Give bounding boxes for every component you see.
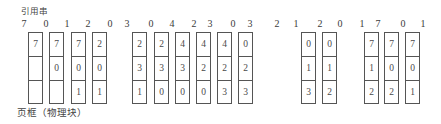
reference-item: 1 (417, 18, 429, 29)
frame-cell: 1 (93, 80, 106, 103)
frame-cell: 1 (406, 80, 419, 103)
frame-cell: 2 (218, 56, 231, 79)
frame-column: 0 2 3 (238, 32, 253, 104)
frame-cell: 0 (72, 56, 85, 79)
frame-column: 7 0 (49, 32, 64, 104)
frame-column: 0 1 3 (301, 32, 316, 104)
frame-cell: 7 (365, 33, 378, 56)
frame-column: 2 0 1 (92, 32, 107, 104)
frame-column: 4 3 0 (175, 32, 190, 104)
frame-cell: 1 (365, 56, 378, 79)
frame-column: 7 1 2 (364, 32, 379, 104)
frame-cell: 2 (385, 80, 398, 103)
reference-item: 3 (121, 18, 133, 29)
frame-cell: 3 (176, 56, 189, 79)
frame-cell: 2 (93, 33, 106, 56)
frame-cell: 7 (50, 33, 63, 56)
frame-cell: 1 (323, 56, 336, 79)
frame-column: 2 3 1 (132, 32, 147, 104)
frame-cell (50, 80, 63, 103)
frame-cell: 2 (155, 33, 168, 56)
frame-cell: 0 (197, 80, 210, 103)
frame-cell: 1 (302, 56, 315, 79)
frame-cell: 2 (197, 56, 210, 79)
frame-column: 2 3 0 (154, 32, 169, 104)
reference-item: 0 (227, 18, 239, 29)
frame-cell: 0 (155, 80, 168, 103)
frame-column: 7 (28, 32, 43, 104)
frame-cell: 2 (323, 80, 336, 103)
page-frame-label: 页框（物理块） (17, 107, 87, 119)
frame-cell: 4 (218, 33, 231, 56)
frame-cell: 2 (133, 33, 146, 56)
frame-column: 7 0 1 (71, 32, 86, 104)
reference-item: 4 (166, 18, 178, 29)
frame-cell: 1 (133, 80, 146, 103)
reference-item: 0 (104, 18, 116, 29)
frame-cell (29, 80, 42, 103)
frame-column: 0 1 2 (322, 32, 337, 104)
frame-cell: 7 (72, 33, 85, 56)
frame-cell: 7 (385, 33, 398, 56)
frame-column: 4 2 3 (217, 32, 232, 104)
frame-cell: 0 (93, 56, 106, 79)
reference-item: 0 (334, 18, 346, 29)
reference-item: 2 (314, 18, 326, 29)
frame-cell: 0 (50, 56, 63, 79)
frame-column: 4 2 0 (196, 32, 211, 104)
frame-cell: 3 (302, 80, 315, 103)
frame-cell: 0 (406, 56, 419, 79)
frame-cell: 0 (385, 56, 398, 79)
frame-cell: 4 (176, 33, 189, 56)
frame-cell: 2 (239, 56, 252, 79)
frame-column: 7 0 1 (405, 32, 420, 104)
frame-cell: 3 (239, 80, 252, 103)
reference-string-title: 引用串 (21, 6, 48, 17)
frame-column: 7 0 2 (384, 32, 399, 104)
frame-cell: 0 (302, 33, 315, 56)
frame-cell: 4 (197, 33, 210, 56)
reference-item: 3 (244, 18, 256, 29)
frame-cell: 3 (218, 80, 231, 103)
reference-item: 3 (204, 18, 216, 29)
reference-item: 1 (356, 18, 368, 29)
reference-item: 0 (40, 18, 52, 29)
reference-item: 1 (290, 18, 302, 29)
frame-cell: 0 (239, 33, 252, 56)
frame-cell: 7 (406, 33, 419, 56)
frame-cell: 1 (72, 80, 85, 103)
frame-cell: 3 (133, 56, 146, 79)
reference-item: 1 (61, 18, 73, 29)
reference-item: 2 (82, 18, 94, 29)
reference-item: 2 (188, 18, 200, 29)
frame-cell: 2 (365, 80, 378, 103)
reference-item: 2 (271, 18, 283, 29)
frame-cell: 3 (155, 56, 168, 79)
frame-cell: 0 (176, 80, 189, 103)
reference-item: 7 (18, 18, 30, 29)
reference-item: 0 (145, 18, 157, 29)
frame-cell: 0 (323, 33, 336, 56)
frame-cell (29, 56, 42, 79)
frame-cell: 7 (29, 33, 42, 56)
reference-item: 0 (397, 18, 409, 29)
reference-item: 7 (372, 18, 384, 29)
